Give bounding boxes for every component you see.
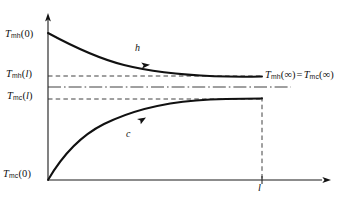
cold-flow-direction-arrow-icon: [137, 118, 146, 125]
asymptote-left-argument: ∞: [284, 69, 292, 80]
asymptote-equals-sign: =: [296, 69, 304, 80]
cold-outlet-paren-close: ): [29, 90, 33, 101]
cold-stream-curve: [48, 99, 262, 180]
hot-inlet-subscript: mh: [11, 32, 21, 39]
cold-inlet-temperature-label: Tmc(0): [3, 169, 31, 180]
x-axis-tick-label-l: l: [258, 182, 261, 193]
plot-area: [0, 0, 364, 205]
hot-curve-label: h: [135, 42, 140, 53]
temperature-profile-figure: Tmh(0) Tmh(l) Tmc(l) Tmc(0) Tmh(∞)=Tmc(∞…: [0, 0, 364, 205]
hot-outlet-subscript: mh: [12, 72, 22, 79]
hot-inlet-paren-close: ): [30, 28, 34, 39]
cold-curve-label: c: [126, 128, 130, 139]
cold-inlet-paren-close: ): [27, 168, 31, 179]
asymptote-right-paren-close: ): [330, 69, 334, 80]
hot-flow-direction-arrow-icon: [141, 63, 150, 69]
asymptote-left-subscript: mh: [271, 73, 281, 80]
x-axis-arrow-icon: [322, 177, 331, 183]
hot-outlet-paren-close: ): [28, 68, 32, 79]
asymptote-right-subscript: mc: [310, 73, 319, 80]
cold-outlet-subscript: mc: [13, 94, 22, 101]
hot-outlet-temperature-label: Tmh(l): [6, 69, 32, 80]
hot-stream-curve: [48, 33, 262, 77]
hot-inlet-temperature-label: Tmh(0): [5, 29, 33, 40]
asymptotic-temperature-label: Tmh(∞)=Tmc(∞): [265, 70, 334, 81]
cold-inlet-subscript: mc: [9, 172, 18, 179]
cold-outlet-temperature-label: Tmc(l): [7, 91, 33, 102]
